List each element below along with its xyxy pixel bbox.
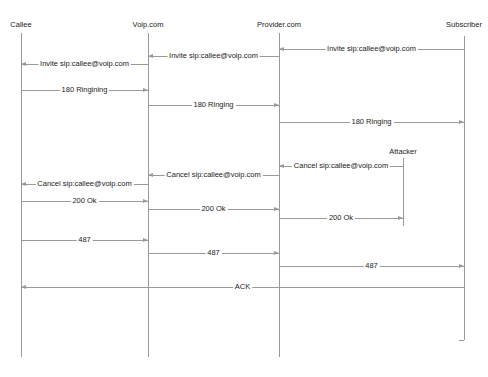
lifeline-provider xyxy=(279,33,280,357)
message-label: Invite sip:callee@voip.com xyxy=(325,44,418,54)
message-arrow: 180 Ringing xyxy=(279,122,464,123)
message-label: 180 Ringing xyxy=(349,117,393,127)
message-arrow: 200 Ok xyxy=(279,218,403,219)
arrow-right-icon xyxy=(459,120,464,124)
arrow-left-icon xyxy=(148,54,153,58)
arrow-right-icon xyxy=(143,238,148,242)
message-label: 487 xyxy=(76,235,93,245)
message-arrow: 180 Ringing xyxy=(148,105,279,106)
message-arrow: 200 Ok xyxy=(148,209,279,210)
lifeline-voip xyxy=(148,33,149,357)
message-arrow: 180 Ringining xyxy=(21,90,148,91)
message-arrow: Cancel sip:callee@voip.com xyxy=(148,175,279,176)
message-label: ACK xyxy=(233,282,252,292)
message-arrow: Invite sip:callee@voip.com xyxy=(21,64,148,65)
message-arrow: ACK xyxy=(21,287,464,288)
arrow-left-icon xyxy=(279,164,284,168)
message-label: 180 Ringing xyxy=(191,100,235,110)
arrow-right-icon xyxy=(143,88,148,92)
lifeline-end-tick xyxy=(459,340,464,341)
arrow-right-icon xyxy=(459,264,464,268)
arrow-left-icon xyxy=(21,62,26,66)
message-label: 487 xyxy=(363,261,380,271)
arrow-right-icon xyxy=(398,216,403,220)
arrow-right-icon xyxy=(274,251,279,255)
message-arrow: 487 xyxy=(279,266,464,267)
lifeline-callee xyxy=(21,33,22,357)
message-arrow: Cancel sip:callee@voip.com xyxy=(279,166,403,167)
message-label: 200 Ok xyxy=(70,196,98,206)
message-label: 200 Ok xyxy=(199,204,227,214)
message-arrow: Cancel sip:callee@voip.com xyxy=(21,184,148,185)
arrow-left-icon xyxy=(279,47,284,51)
participant-voip-label: Voip.com xyxy=(133,20,164,29)
message-label: 180 Ringining xyxy=(60,85,110,95)
message-arrow: 487 xyxy=(21,240,148,241)
message-label: Cancel sip:callee@voip.com xyxy=(292,161,390,171)
lifeline-subscriber xyxy=(464,36,465,340)
message-arrow: 487 xyxy=(148,253,279,254)
participant-subscriber-label: Subscriber xyxy=(446,20,482,29)
arrow-right-icon xyxy=(143,199,148,203)
message-label: Cancel sip:callee@voip.com xyxy=(35,179,133,189)
message-arrow: Invite sip:callee@voip.com xyxy=(148,56,279,57)
arrow-left-icon xyxy=(21,182,26,186)
message-arrow: 200 Ok xyxy=(21,201,148,202)
sequence-diagram: CalleeVoip.comProvider.comSubscriberAtta… xyxy=(0,0,488,377)
participant-provider-label: Provider.com xyxy=(257,20,301,29)
arrow-right-icon xyxy=(274,103,279,107)
message-label: Invite sip:callee@voip.com xyxy=(38,59,131,69)
message-label: Invite sip:callee@voip.com xyxy=(167,51,260,61)
message-arrow: Invite sip:callee@voip.com xyxy=(279,49,464,50)
message-label: Cancel sip:callee@voip.com xyxy=(164,170,262,180)
arrow-left-icon xyxy=(21,285,26,289)
message-label: 200 Ok xyxy=(327,213,355,223)
participant-callee-label: Callee xyxy=(10,20,31,29)
participant-attacker-label: Attacker xyxy=(389,147,417,156)
message-label: 487 xyxy=(205,248,222,258)
lifeline-attacker xyxy=(403,158,404,226)
arrow-right-icon xyxy=(274,207,279,211)
arrow-left-icon xyxy=(148,173,153,177)
